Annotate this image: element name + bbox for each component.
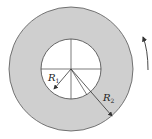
rotation-arrow-icon <box>143 37 148 70</box>
annulus-diagram: R1 R2 <box>0 0 152 139</box>
